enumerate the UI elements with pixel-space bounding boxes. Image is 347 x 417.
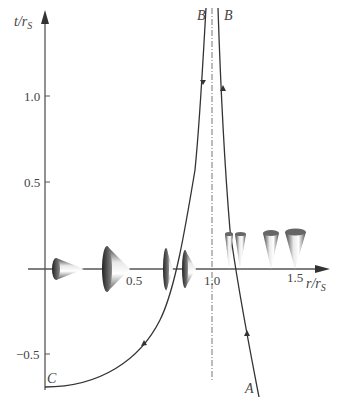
- x-tick-label: 1.5: [287, 270, 303, 285]
- light-cone-icon: [235, 232, 246, 269]
- point-label-a: A: [244, 381, 254, 396]
- light-cone-icon: [52, 258, 84, 280]
- t-axis-arrow-icon: [41, 10, 49, 24]
- direction-arrow-icon: [244, 330, 250, 336]
- t-axis-label: t/rS: [14, 14, 32, 31]
- light-cone-icon: [263, 230, 279, 269]
- outgoing-worldline: [218, 8, 259, 397]
- y-tick-label: 1.0: [24, 89, 40, 104]
- x-tick-label: 0.5: [126, 273, 142, 288]
- light-cone-icon: [285, 229, 306, 270]
- y-tick-label: 0.5: [24, 175, 40, 190]
- y-tick-label: −0.5: [16, 347, 40, 362]
- r-axis-label: r/rS: [306, 276, 326, 293]
- r-axis-arrow-icon: [315, 265, 330, 273]
- x-tick-label: 1.0: [204, 273, 220, 288]
- svg-text:t/rS: t/rS: [14, 14, 32, 31]
- diagram-canvas: 1.0 0.5 −0.5 0.5 1.0 1.5 t/rS r/rS B B C…: [0, 0, 347, 417]
- light-cone-icon: [182, 250, 196, 288]
- point-label-b-right: B: [224, 8, 233, 23]
- point-label-c: C: [47, 371, 57, 386]
- light-cone-icon: [225, 232, 233, 269]
- light-cone-icon: [163, 248, 173, 291]
- point-label-b-left: B: [197, 8, 206, 23]
- svg-text:r/rS: r/rS: [306, 276, 326, 293]
- schwarzschild-light-cone-diagram: 1.0 0.5 −0.5 0.5 1.0 1.5 t/rS r/rS B B C…: [0, 0, 347, 417]
- ingoing-worldline: [45, 8, 206, 387]
